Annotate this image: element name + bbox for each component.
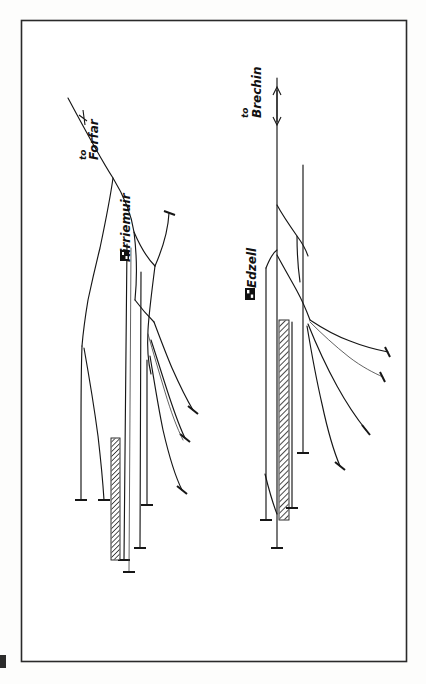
goods-shed-hatching (112, 439, 120, 560)
goods-shed-edzell (279, 320, 289, 520)
page-corner-mark (0, 655, 6, 668)
label-to-brechin-line2: Brechin (250, 66, 264, 118)
label-edzell-group: Edzell (245, 247, 259, 288)
label-to-brechin-line1: to (240, 108, 250, 119)
page-canvas: to Forfar Kirriemuir (0, 0, 426, 684)
goods-shed-kirriemuir (111, 438, 120, 560)
station-building-icon-edzell (245, 288, 255, 300)
goods-shed-hatching-edzell (280, 321, 289, 520)
label-edzell: Edzell (245, 247, 259, 288)
station-building-icon-kirriemuir (120, 250, 129, 261)
railway-track-diagram: to Forfar Kirriemuir (0, 0, 426, 684)
label-to-forfar-line2: Forfar (87, 118, 101, 160)
